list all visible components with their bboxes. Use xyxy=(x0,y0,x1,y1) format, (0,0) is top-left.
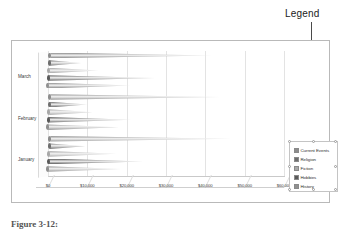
cone-body xyxy=(49,117,132,123)
legend-item[interactable]: Hobbies xyxy=(294,173,316,181)
cone-bar[interactable] xyxy=(48,166,121,172)
cone-bar[interactable] xyxy=(50,53,211,59)
cone-bar[interactable] xyxy=(50,60,81,66)
x-axis-tick-label: $0 xyxy=(46,183,50,188)
cone-body xyxy=(50,102,87,108)
resize-handle[interactable] xyxy=(288,188,291,191)
cone-base xyxy=(46,124,49,130)
cone-bar[interactable] xyxy=(49,159,143,165)
legend-item[interactable]: Religion xyxy=(294,155,316,163)
cone-bar[interactable] xyxy=(50,136,231,142)
resize-handle[interactable] xyxy=(334,165,337,168)
cone-base xyxy=(47,159,50,165)
cone-body xyxy=(50,94,219,100)
plot-area xyxy=(48,51,284,176)
resize-handle[interactable] xyxy=(288,140,291,143)
cone-bar[interactable] xyxy=(49,68,98,74)
resize-handle[interactable] xyxy=(334,188,337,191)
cone-body xyxy=(49,75,155,81)
gridline xyxy=(205,51,206,176)
resize-handle[interactable] xyxy=(334,140,337,143)
cone-base xyxy=(48,102,51,108)
cone-body xyxy=(50,60,81,66)
cone-base xyxy=(48,143,51,149)
cone-body xyxy=(50,53,211,59)
cone-bar[interactable] xyxy=(50,102,87,108)
callout-label: Legend xyxy=(285,8,320,19)
gridline xyxy=(127,51,128,176)
legend-swatch-icon xyxy=(294,148,299,153)
chart-legend[interactable]: Current EventsReligionFictionHobbiesHist… xyxy=(289,141,338,192)
cone-bar[interactable] xyxy=(50,94,219,100)
legend-swatch-icon xyxy=(294,157,299,162)
cone-bar[interactable] xyxy=(48,124,119,130)
gridline xyxy=(166,51,167,176)
legend-swatch-icon xyxy=(294,175,299,180)
y-axis-category-label: January xyxy=(18,157,34,162)
cone-body xyxy=(48,83,131,89)
cone-body xyxy=(48,166,121,172)
cone-bar[interactable] xyxy=(49,75,155,81)
y-axis-category-label: March xyxy=(18,74,31,79)
legend-item-label: Current Events xyxy=(301,148,330,153)
x-axis-tick-label: $50,000 xyxy=(237,183,251,188)
legend-item[interactable]: Fiction xyxy=(294,164,313,172)
cone-bar[interactable] xyxy=(49,117,132,123)
resize-handle[interactable] xyxy=(312,188,315,191)
cone-body xyxy=(50,143,85,149)
x-axis-tick-label: $10,000 xyxy=(80,183,94,188)
cone-base xyxy=(47,75,50,81)
cone-body xyxy=(49,68,98,74)
legend-item-label: Fiction xyxy=(301,166,314,171)
y-axis-category-label: February xyxy=(18,116,36,121)
gridline xyxy=(245,51,246,176)
legend-swatch-icon xyxy=(294,166,299,171)
legend-swatch-icon xyxy=(294,184,299,189)
cone-body xyxy=(49,109,92,115)
legend-item[interactable]: History xyxy=(294,182,314,190)
x-axis-tick-label: $30,000 xyxy=(159,183,173,188)
resize-handle[interactable] xyxy=(312,140,315,143)
legend-item-label: Hobbies xyxy=(301,175,317,180)
cone-base xyxy=(47,117,50,123)
legend-item[interactable]: Current Events xyxy=(294,146,329,154)
x-axis-tick-label: $20,000 xyxy=(119,183,133,188)
cone-bar[interactable] xyxy=(50,143,85,149)
cone-body xyxy=(48,124,119,130)
cone-base xyxy=(47,151,50,157)
gridline xyxy=(284,51,285,176)
cone-bar[interactable] xyxy=(49,151,116,157)
cone-body xyxy=(49,159,143,165)
cone-base xyxy=(48,60,51,66)
chart-frame[interactable]: $0$10,000$20,000$30,000$40,000$50,000$60… xyxy=(11,40,330,203)
cone-base xyxy=(46,166,49,172)
figure-caption: Figure 3-12: xyxy=(11,219,58,229)
cone-body xyxy=(49,151,116,157)
resize-handle[interactable] xyxy=(288,165,291,168)
x-axis-tick-label: $40,000 xyxy=(198,183,212,188)
cone-bar[interactable] xyxy=(49,109,92,115)
cone-body xyxy=(50,136,231,142)
cone-bar[interactable] xyxy=(48,83,131,89)
legend-item-label: Religion xyxy=(301,157,316,162)
